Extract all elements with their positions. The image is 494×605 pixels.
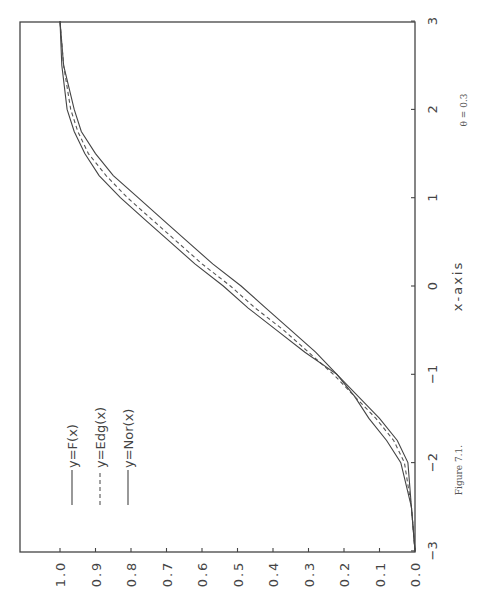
y-tick-label: 0.1 [373,561,388,588]
figure-caption: Figure 7.1. [454,445,464,495]
series-line-1 [60,21,415,551]
x-tick-label: 2 [425,105,440,113]
legend: y=F(x)y=Edg(x)y=Nor(x) [65,407,136,505]
y-tick-label: 0.4 [266,561,281,588]
legend-label: y=Nor(x) [121,409,136,468]
y-tick-label: 0.7 [160,561,175,588]
y-tick-label: 0.6 [195,561,210,588]
x-tick-label: 1 [425,194,440,202]
plot-frame [20,22,415,552]
x-tick-label: 0 [425,282,440,290]
x-axis-label: x-axis [450,261,465,311]
chart: 0.00.10.20.30.40.50.60.70.80.91.0 −3−2−1… [0,0,494,605]
y-tick-label: 0.8 [124,561,139,588]
series-line-0 [60,21,415,551]
y-tick-label: 0.0 [408,561,423,588]
y-tick-label: 1.0 [53,561,68,588]
series-line-2 [60,21,415,551]
x-tick-label: −3 [425,541,440,560]
x-tick-label: −2 [425,453,440,472]
y-tick-label: 0.9 [89,561,104,588]
x-tick-label: 3 [425,17,440,25]
legend-label: y=Edg(x) [93,407,108,468]
legend-label: y=F(x) [65,424,80,468]
y-tick-label: 0.2 [337,561,352,588]
y-axis-ticks: 0.00.10.20.30.40.50.60.70.80.91.0 [53,548,423,587]
y-tick-label: 0.3 [302,561,317,588]
curves [60,21,415,551]
x-tick-label: −1 [425,365,440,384]
y-tick-label: 0.5 [231,561,246,588]
theta-annotation: θ = 0.3 [459,93,469,126]
